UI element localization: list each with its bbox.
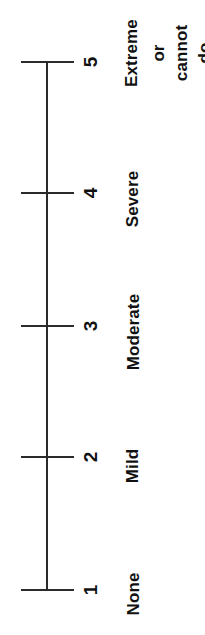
tick-label-5: 5 <box>79 45 103 79</box>
tick-mark-4 <box>21 192 74 194</box>
tick-label-1: 1 <box>79 573 103 607</box>
anchor-label-moderate: Moderate <box>123 276 145 388</box>
anchor-label-mild: Mild <box>122 436 144 496</box>
severity-scale-figure: 5 4 3 2 1 Extreme or cannot do Severe Mo… <box>0 0 205 635</box>
tick-label-3: 3 <box>79 309 103 343</box>
tick-mark-2 <box>21 456 74 458</box>
anchor-label-extreme-line-3: cannot <box>171 0 193 108</box>
anchor-label-extreme-line-4: do <box>194 0 205 108</box>
anchor-label-extreme-line-2: or <box>148 0 170 108</box>
tick-mark-1 <box>21 589 74 591</box>
anchor-label-extreme-line-1: Extreme <box>121 0 143 108</box>
tick-label-2: 2 <box>79 440 103 474</box>
anchor-label-none: None <box>123 558 145 630</box>
anchor-label-severe: Severe <box>122 156 144 242</box>
tick-label-4: 4 <box>79 176 103 210</box>
tick-mark-3 <box>21 325 74 327</box>
tick-mark-5 <box>21 61 74 63</box>
